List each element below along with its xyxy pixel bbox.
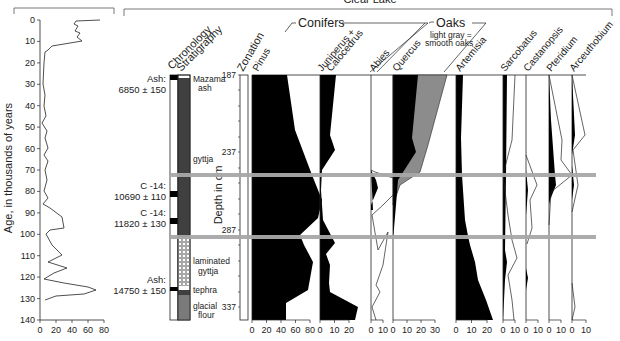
svg-text:0: 0 xyxy=(37,325,42,335)
svg-text:40: 40 xyxy=(67,325,77,335)
svg-text:0: 0 xyxy=(249,325,254,335)
svg-text:0: 0 xyxy=(368,325,373,335)
svg-text:0: 0 xyxy=(30,15,35,25)
svg-text:90: 90 xyxy=(25,208,35,218)
pollen-figure: 0 10 20 30 40 50 60 70 80 90 100 110 120… xyxy=(0,0,620,341)
age-x-ticks xyxy=(40,320,104,323)
age-chart: 0 10 20 30 40 50 60 70 80 90 100 110 120… xyxy=(2,8,114,335)
stratigraphy-column xyxy=(178,75,190,320)
svg-text:10: 10 xyxy=(581,325,591,335)
left-bracket xyxy=(14,8,114,14)
svg-text:10: 10 xyxy=(402,325,412,335)
taxa-x-tick-labels: 0 20 40 60 80 0 10 20 0 10 0 10 20 30 0 … xyxy=(249,325,591,335)
laminated-gyttja-layer xyxy=(178,237,190,286)
svg-text:10: 10 xyxy=(533,325,543,335)
conifers-group-label: Conifers xyxy=(298,16,345,30)
svg-text:10690 ± 110: 10690 ± 110 xyxy=(114,191,166,202)
svg-text:20: 20 xyxy=(51,325,61,335)
quercus-curve xyxy=(393,75,447,320)
artemisia-curve xyxy=(456,75,493,320)
c14-marker-2 xyxy=(170,218,178,224)
svg-text:C -14:: C -14: xyxy=(140,180,166,191)
age-x-tick-labels: 0 20 40 60 80 xyxy=(37,325,109,335)
abies-curve xyxy=(371,75,393,320)
svg-text:120: 120 xyxy=(20,272,35,282)
right-bracket xyxy=(124,9,612,16)
svg-text:337: 337 xyxy=(222,302,236,312)
svg-text:100: 100 xyxy=(20,229,35,239)
age-y-ticks xyxy=(37,20,40,320)
svg-text:80: 80 xyxy=(25,186,35,196)
age-y-tick-labels: 0 10 20 30 40 50 60 70 80 90 100 110 120… xyxy=(20,15,35,325)
svg-text:10: 10 xyxy=(510,325,520,335)
svg-text:0: 0 xyxy=(453,325,458,335)
quercus-header: Quercus xyxy=(390,37,423,73)
svg-text:30: 30 xyxy=(25,79,35,89)
svg-text:gyttja: gyttja xyxy=(198,266,219,276)
svg-text:10: 10 xyxy=(25,36,35,46)
svg-text:60: 60 xyxy=(83,325,93,335)
svg-text:60: 60 xyxy=(25,144,35,154)
arceuthobium-curve xyxy=(572,75,585,320)
chronology-column xyxy=(170,75,178,320)
svg-text:ash: ash xyxy=(198,83,212,93)
pteridium-curve xyxy=(549,75,572,320)
glacial-flour-layer xyxy=(178,295,190,320)
c14-marker-1 xyxy=(170,191,178,197)
age-series-line xyxy=(42,20,100,300)
gyttja-layer xyxy=(178,78,190,237)
svg-text:Ash:: Ash: xyxy=(147,73,166,84)
chronology-labels: Ash: 6850 ± 150 C -14: 10690 ± 110 C -14… xyxy=(113,73,166,296)
panel-header: Clear Lake xyxy=(124,0,612,16)
svg-text:0: 0 xyxy=(523,325,528,335)
svg-text:flour: flour xyxy=(198,310,215,320)
svg-text:70: 70 xyxy=(25,165,35,175)
svg-text:tephra: tephra xyxy=(193,285,217,295)
depth-axis: 187 237 287 337 Depth in cm xyxy=(212,70,248,320)
svg-text:140: 140 xyxy=(20,315,35,325)
svg-text:0: 0 xyxy=(390,325,395,335)
svg-text:11820 ± 130: 11820 ± 130 xyxy=(114,218,166,229)
svg-text:0: 0 xyxy=(500,325,505,335)
oaks-note-line2: smooth oaks xyxy=(425,38,473,48)
svg-text:40: 40 xyxy=(25,101,35,111)
svg-text:gyttja: gyttja xyxy=(193,154,214,164)
svg-text:10: 10 xyxy=(556,325,566,335)
svg-text:10: 10 xyxy=(329,325,339,335)
svg-text:20: 20 xyxy=(482,325,492,335)
svg-text:40: 40 xyxy=(276,325,286,335)
svg-text:80: 80 xyxy=(305,325,315,335)
svg-text:6850 ± 150: 6850 ± 150 xyxy=(119,84,166,95)
tephra-layer xyxy=(178,290,190,295)
juniperus-curve xyxy=(320,75,358,320)
castanopsis-curve xyxy=(526,75,537,320)
svg-text:130: 130 xyxy=(20,294,35,304)
svg-text:C -14:: C -14: xyxy=(140,207,166,218)
svg-text:20: 20 xyxy=(261,325,271,335)
ash-marker-2 xyxy=(170,287,178,291)
svg-text:50: 50 xyxy=(25,122,35,132)
svg-text:Ash:: Ash: xyxy=(147,274,166,285)
age-axis-label: Age, in thousands of years xyxy=(2,102,14,233)
svg-text:20: 20 xyxy=(416,325,426,335)
svg-text:0: 0 xyxy=(317,325,322,335)
svg-text:287: 287 xyxy=(222,225,236,235)
svg-text:10: 10 xyxy=(378,325,388,335)
svg-text:20: 20 xyxy=(344,325,354,335)
ash-marker-1 xyxy=(170,75,178,80)
svg-text:60: 60 xyxy=(290,325,300,335)
svg-text:0: 0 xyxy=(546,325,551,335)
svg-text:20: 20 xyxy=(25,58,35,68)
svg-text:14750 ± 150: 14750 ± 150 xyxy=(113,285,166,296)
svg-text:10: 10 xyxy=(466,325,476,335)
svg-text:laminated: laminated xyxy=(193,256,230,266)
sarcobatus-curve xyxy=(503,75,517,320)
svg-text:30: 30 xyxy=(430,325,440,335)
svg-text:110: 110 xyxy=(21,251,35,261)
oaks-group-label: Oaks xyxy=(436,16,465,30)
zonation-column xyxy=(240,75,248,320)
clipped-title: Clear Lake xyxy=(343,0,396,5)
svg-text:237: 237 xyxy=(222,147,236,157)
svg-text:187: 187 xyxy=(222,70,236,80)
svg-text:0: 0 xyxy=(569,325,574,335)
